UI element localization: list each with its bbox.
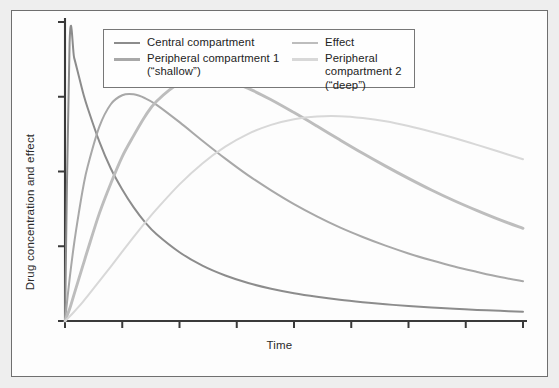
legend-item: Peripheral compartment 2 (“deep”) (292, 52, 417, 92)
y-axis-label: Drug concentration and effect (24, 112, 36, 312)
legend-label: Effect (325, 36, 354, 49)
chart-series-line (65, 77, 523, 321)
legend-item: Peripheral compartment 1 (“shallow”) (114, 52, 294, 78)
legend-item: Central compartment (114, 36, 294, 49)
figure-container: Drug concentration and effect Time Centr… (0, 0, 559, 388)
legend-label: Peripheral compartment 2 (“deep”) (325, 52, 417, 92)
legend-column-right: EffectPeripheral compartment 2 (“deep”) (292, 36, 417, 95)
chart-series-line (65, 116, 523, 321)
legend-swatch-line-icon (114, 42, 140, 44)
legend-column-left: Central compartmentPeripheral compartmen… (114, 36, 294, 82)
legend-swatch-line-icon (292, 42, 318, 44)
legend-label: Peripheral compartment 1 (“shallow”) (147, 52, 279, 78)
legend-item: Effect (292, 36, 417, 49)
legend-swatch-line-icon (114, 58, 140, 60)
chart-legend: Central compartmentPeripheral compartmen… (103, 29, 415, 88)
x-axis-label: Time (0, 339, 559, 351)
legend-swatch-line-icon (292, 58, 318, 60)
legend-label: Central compartment (147, 36, 254, 49)
